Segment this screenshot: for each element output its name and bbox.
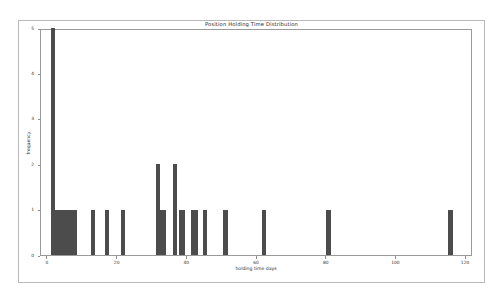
x-tick-mark: [465, 256, 466, 259]
x-axis-label: holding time days: [40, 266, 472, 271]
histogram-bar: [179, 210, 186, 255]
y-tick-mark: [38, 210, 41, 211]
y-tick-label: 3: [31, 116, 34, 121]
y-tick-label: 0: [31, 253, 34, 258]
x-tick-label: 80: [323, 260, 329, 265]
x-tick-mark: [116, 256, 117, 259]
histogram-bar: [262, 210, 267, 255]
histogram-bar: [121, 210, 126, 255]
y-tick-label: 1: [31, 207, 34, 212]
y-tick-mark: [38, 256, 41, 257]
y-tick-label: 5: [31, 26, 34, 31]
x-tick-mark: [325, 256, 326, 259]
x-tick-mark: [46, 256, 47, 259]
x-tick-mark: [256, 256, 257, 259]
histogram-bar: [91, 210, 95, 255]
y-tick-mark: [38, 119, 41, 120]
histogram-bar: [173, 164, 177, 255]
histogram-bar: [105, 210, 110, 255]
x-tick-label: 120: [461, 260, 469, 265]
histogram-bar: [326, 210, 331, 255]
y-axis-label: frequency: [26, 131, 31, 154]
x-tick-mark: [186, 256, 187, 259]
y-tick-mark: [38, 29, 41, 30]
histogram-bar: [448, 210, 453, 255]
histogram-bar: [191, 210, 198, 255]
x-tick-label: 100: [391, 260, 399, 265]
histogram-bar: [160, 210, 167, 255]
histogram-bar: [64, 210, 77, 255]
chart-figure: Position Holding Time Distribution frequ…: [0, 0, 502, 297]
x-tick-mark: [395, 256, 396, 259]
x-tick-label: 20: [114, 260, 120, 265]
x-tick-label: 60: [253, 260, 259, 265]
plot-area: [40, 29, 472, 256]
x-tick-label: 0: [46, 260, 49, 265]
chart-title: Position Holding Time Distribution: [18, 21, 485, 27]
x-tick-label: 40: [184, 260, 190, 265]
y-tick-mark: [38, 74, 41, 75]
histogram-bar: [223, 210, 228, 255]
y-tick-label: 2: [31, 162, 34, 167]
bars-layer: [41, 30, 471, 255]
y-tick-label: 4: [31, 71, 34, 76]
histogram-bar: [203, 210, 207, 255]
y-tick-mark: [38, 165, 41, 166]
